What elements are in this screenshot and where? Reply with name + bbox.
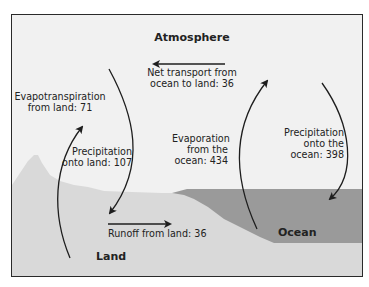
atmosphere-label: Atmosphere [152, 32, 232, 43]
precipitation-land-line2: onto land: 107 [56, 157, 132, 168]
precipitation-ocean-line1: Precipitation [276, 127, 344, 138]
precipitation-land-line1: Precipitation [56, 146, 132, 157]
precipitation-ocean-line2: onto the [276, 138, 344, 149]
evapotranspiration-label: Evapotranspiration from land: 71 [14, 91, 106, 113]
evaporation-ocean-label: Evaporation from the ocean: 434 [172, 133, 228, 166]
ocean-label: Ocean [278, 227, 317, 238]
evaporation-ocean-line2: from the [172, 144, 228, 155]
water-cycle-diagram: Atmosphere Net transport from ocean to l… [11, 14, 363, 277]
evapotranspiration-line1: Evapotranspiration [14, 91, 106, 102]
land-label: Land [96, 251, 126, 262]
evaporation-ocean-line3: ocean: 434 [172, 155, 228, 166]
precipitation-ocean-line3: ocean: 398 [276, 149, 344, 160]
net-transport-label: Net transport from ocean to land: 36 [142, 67, 242, 89]
net-transport-line2: ocean to land: 36 [142, 78, 242, 89]
precipitation-ocean-label: Precipitation onto the ocean: 398 [276, 127, 344, 160]
precipitation-land-label: Precipitation onto land: 107 [56, 146, 132, 168]
evaporation-ocean-line1: Evaporation [172, 133, 228, 144]
evapotranspiration-line2: from land: 71 [14, 102, 106, 113]
net-transport-line1: Net transport from [142, 67, 242, 78]
runoff-label: Runoff from land: 36 [108, 228, 207, 239]
